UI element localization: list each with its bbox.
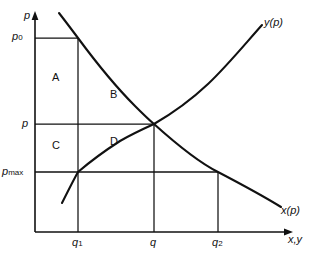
price-axis-label: p (24, 10, 30, 21)
tick-base-q: q (150, 236, 156, 248)
region-label-c: C (52, 140, 60, 151)
tick-label-q2: q2 (212, 237, 223, 248)
quantity-axis-label: x,y (288, 234, 302, 245)
tick-label-p0: p0 (12, 31, 23, 42)
tick-subscript-q1: 1 (78, 239, 82, 248)
tick-label-p: p (22, 118, 28, 129)
supply-curve (62, 25, 262, 203)
demand-curve-label: x(p) (281, 205, 300, 216)
tick-subscript-q2: 2 (218, 239, 222, 248)
price-axis-arrow-icon (32, 11, 39, 20)
region-label-b: B (110, 89, 117, 100)
tick-label-pmax: pmax (2, 166, 23, 177)
supply-demand-figure: p x,y p0 p pmax q1 q q2 y(p) x(p) A B C … (0, 0, 317, 275)
supply-curve-label: y(p) (264, 17, 283, 28)
tick-label-q: q (150, 237, 156, 248)
diagram-canvas (0, 0, 317, 275)
axis-group (32, 11, 293, 235)
tick-subscript-pmax: max (8, 168, 23, 177)
tick-label-q1: q1 (72, 237, 83, 248)
tick-subscript-p0: 0 (18, 33, 22, 42)
region-label-d: D (110, 136, 118, 147)
region-label-a: A (52, 72, 59, 83)
tick-base-p: p (22, 117, 28, 129)
